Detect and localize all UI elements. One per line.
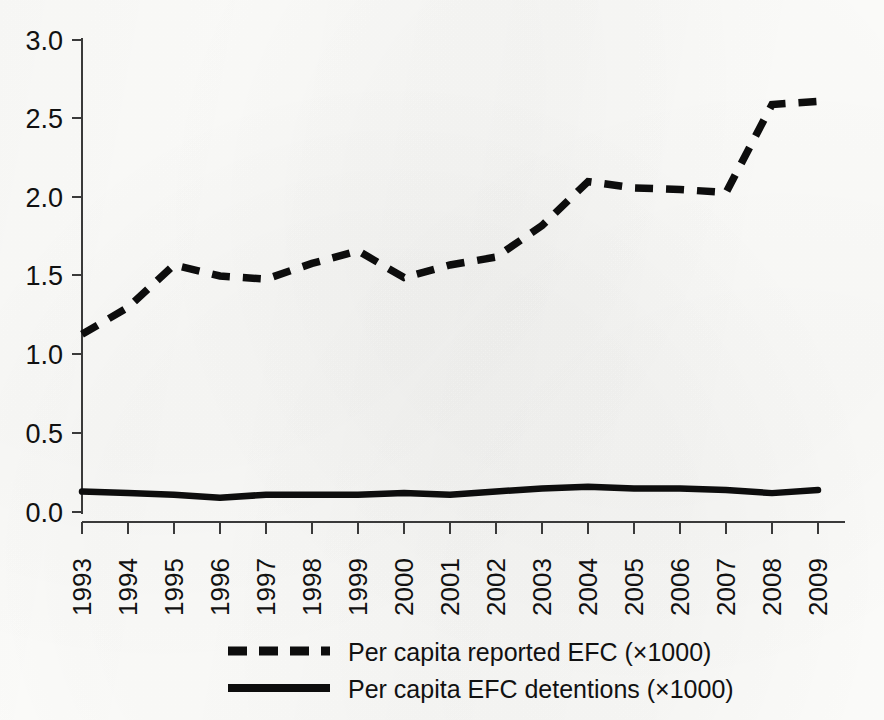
x-tick-label-2009: 2009 [803,558,833,616]
x-tick-label-2000: 2000 [389,558,419,616]
x-tick-label-1994: 1994 [113,558,143,616]
x-tick-label-2007: 2007 [711,558,741,616]
series-per-capita-reported-efc [82,101,818,334]
x-tick-label-2006: 2006 [665,558,695,616]
x-tick-label-2008: 2008 [757,558,787,616]
chart-figure: 3.0 2.5 2.0 1.5 1.0 0.5 0.0 199319941995… [0,0,884,720]
x-tick-label-1995: 1995 [159,558,189,616]
y-tick-label-1-0: 1.0 [25,340,63,370]
x-tick-label-2002: 2002 [481,558,511,616]
x-tick-label-2003: 2003 [527,558,557,616]
legend-label-efc-detentions: Per capita EFC detentions (×1000) [348,675,734,703]
x-tick-label-1998: 1998 [297,558,327,616]
x-tick-label-2001: 2001 [435,558,465,616]
x-tick-label-1997: 1997 [251,558,281,616]
chart-legend: Per capita reported EFC (×1000) Per capi… [228,638,734,703]
x-axis-tick-labels: 1993199419951996199719981999200020012002… [67,558,833,616]
y-tick-label-1-5: 1.5 [25,261,63,291]
x-tick-label-2005: 2005 [619,558,649,616]
y-tick-label-3-0: 3.0 [25,26,63,56]
x-axis: 1993199419951996199719981999200020012002… [67,522,845,616]
y-tick-label-0-5: 0.5 [25,419,63,449]
x-tick-label-1993: 1993 [67,558,97,616]
plot-area [82,101,818,497]
y-axis-ticks [72,40,82,512]
series-per-capita-efc-detentions [82,487,818,498]
y-tick-label-2-0: 2.0 [25,183,63,213]
y-tick-label-2-5: 2.5 [25,104,63,134]
legend-entry-reported-efc: Per capita reported EFC (×1000) [228,638,711,666]
line-chart: 3.0 2.5 2.0 1.5 1.0 0.5 0.0 199319941995… [0,0,884,720]
legend-label-reported-efc: Per capita reported EFC (×1000) [348,638,711,666]
x-tick-label-1996: 1996 [205,558,235,616]
legend-entry-efc-detentions: Per capita EFC detentions (×1000) [228,675,734,703]
x-axis-ticks [82,522,818,534]
x-tick-label-2004: 2004 [573,558,603,616]
y-axis-tick-labels: 3.0 2.5 2.0 1.5 1.0 0.5 0.0 [25,26,63,528]
y-axis: 3.0 2.5 2.0 1.5 1.0 0.5 0.0 [25,26,82,528]
x-tick-label-1999: 1999 [343,558,373,616]
y-tick-label-0-0: 0.0 [25,498,63,528]
